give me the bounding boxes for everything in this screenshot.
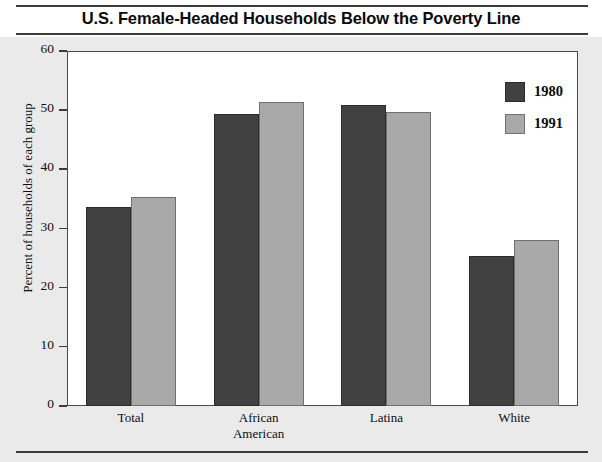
y-axis-tick-mark xyxy=(59,50,67,52)
bar xyxy=(214,114,259,406)
bar xyxy=(341,105,386,406)
legend-label: 1991 xyxy=(534,115,563,132)
y-axis-tick-mark xyxy=(59,228,67,230)
legend-swatch xyxy=(505,114,525,134)
bar xyxy=(514,240,559,406)
bar-series-container xyxy=(67,51,578,406)
x-axis-category-label-line: African xyxy=(195,410,323,426)
y-axis-tick-label: 0 xyxy=(47,396,54,412)
x-axis-category-label-line: American xyxy=(195,426,323,442)
chart-page: U.S. Female-Headed Households Below the … xyxy=(0,0,602,462)
legend-label: 1980 xyxy=(534,83,563,100)
bar xyxy=(386,112,431,406)
top-rule xyxy=(16,5,588,7)
y-axis-tick-label: 20 xyxy=(41,278,55,294)
y-axis-tick-label: 10 xyxy=(41,337,55,353)
x-axis-labels: TotalAfricanAmericanLatinaWhite xyxy=(67,410,578,454)
x-axis-category-label-line: White xyxy=(450,410,578,426)
bar xyxy=(131,197,176,406)
x-axis-category-label-line: Latina xyxy=(323,410,451,426)
x-axis-category-label: Total xyxy=(67,410,195,426)
y-axis-title: Percent of households of each group xyxy=(20,38,36,358)
x-axis-category-label-line: Total xyxy=(67,410,195,426)
bottom-rule xyxy=(16,451,588,453)
x-axis-category-label: White xyxy=(450,410,578,426)
x-axis-category-label: Latina xyxy=(323,410,451,426)
y-axis-tick-mark xyxy=(59,287,67,289)
bar xyxy=(86,207,131,406)
bar xyxy=(259,102,304,406)
page-title: U.S. Female-Headed Households Below the … xyxy=(0,9,602,28)
legend-swatch xyxy=(505,82,525,102)
y-axis-tick-mark xyxy=(59,168,67,170)
y-axis-tick-mark xyxy=(59,405,67,407)
x-axis-category-label: AfricanAmerican xyxy=(195,410,323,441)
y-axis-tick-mark xyxy=(59,109,67,111)
bar xyxy=(469,256,514,406)
y-axis-tick-mark xyxy=(59,346,67,348)
y-axis-tick-label: 60 xyxy=(41,41,55,57)
title-underline-rule xyxy=(16,33,588,35)
y-axis-tick-label: 30 xyxy=(41,219,55,235)
y-axis-tick-label: 40 xyxy=(41,159,55,175)
y-axis-tick-label: 50 xyxy=(41,100,55,116)
title-band: U.S. Female-Headed Households Below the … xyxy=(0,0,602,37)
